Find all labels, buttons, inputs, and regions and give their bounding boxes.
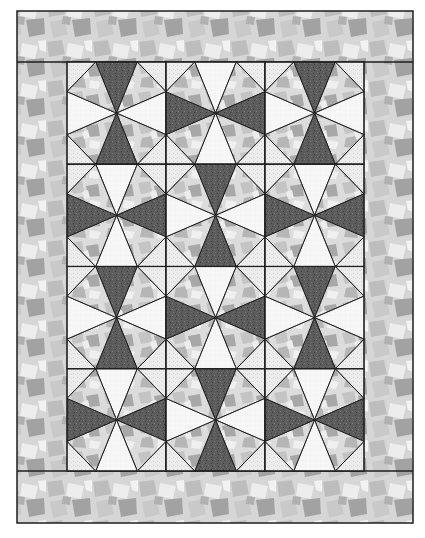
- kaleidoscope-block: [265, 62, 364, 164]
- kaleidoscope-block: [67, 267, 166, 369]
- kaleidoscope-block: [166, 62, 265, 164]
- kaleidoscope-block: [265, 369, 364, 471]
- kaleidoscope-block: [166, 267, 265, 369]
- kaleidoscope-block: [265, 267, 364, 369]
- kaleidoscope-block: [166, 164, 265, 266]
- kaleidoscope-block: [265, 164, 364, 266]
- center-panel: [67, 62, 364, 471]
- kaleidoscope-block: [67, 62, 166, 164]
- kaleidoscope-block: [67, 369, 166, 471]
- quilt-illustration: [0, 0, 425, 538]
- kaleidoscope-block: [67, 164, 166, 266]
- kaleidoscope-block: [166, 369, 265, 471]
